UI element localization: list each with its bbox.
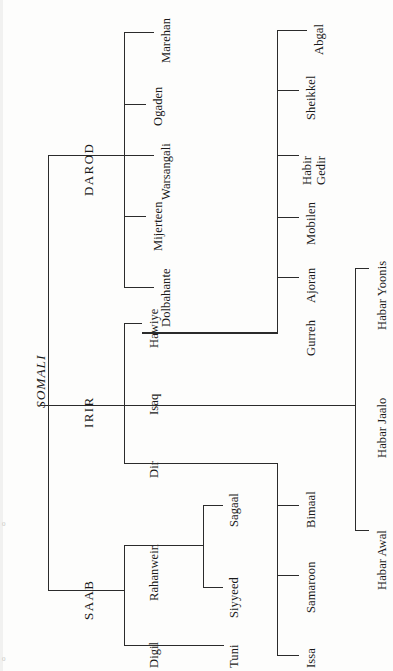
connector-rahanwein-sagaal	[203, 505, 223, 506]
node-abgal: Abgal	[313, 24, 326, 55]
saab-branch-bar	[124, 545, 125, 646]
node-hawiye: Hawiye	[148, 309, 161, 348]
connector-darod-ogaden	[124, 104, 146, 105]
root-trunk	[48, 155, 49, 591]
node-sagaal: Sagaal	[228, 493, 241, 527]
node-bimaal: Bimaal	[305, 491, 318, 528]
node-gurreh: Gurreh	[305, 320, 318, 356]
connector-irir-isaq	[124, 405, 142, 406]
node-mobilen: Mobilen	[305, 202, 318, 245]
node-habar-jaalo: Habar Jaalo	[376, 398, 389, 458]
node-darod: DAROD	[82, 143, 95, 196]
isaq-branch-bar	[355, 268, 356, 531]
node-samaroon: Samaroon	[305, 562, 318, 613]
connector-irir-dir	[124, 463, 142, 464]
node-habar-yoonis: Habar Yoonis	[376, 261, 389, 330]
connector-saab-rahanwein	[124, 545, 142, 546]
irir-branch-bar	[124, 323, 125, 464]
connector-rahanwein-siyyeed	[203, 587, 223, 588]
connector-darod-dolbahante	[124, 287, 154, 288]
connector-hawiye-habir-gedir	[277, 155, 299, 156]
page-margin-mark-top: 0	[2, 520, 6, 528]
dir-branch-bar	[277, 463, 278, 656]
page-margin-mark-bottom: 0	[2, 655, 6, 663]
node-sheikkel: Sheikkel	[305, 75, 318, 120]
connector-rahanwein-to-subtree	[142, 545, 204, 546]
node-dolbahante: Dolbahante	[160, 268, 173, 327]
connector-hawiye-to-subtree	[142, 332, 278, 334]
node-habar-awal: Habar Awal	[376, 530, 389, 590]
darod-branch-bar	[124, 32, 125, 288]
connector-saab-digil	[124, 645, 142, 646]
node-habir-gedir-line1: Habir	[300, 156, 314, 185]
node-ajoran: Ajoran	[305, 268, 318, 303]
node-saab: SAAB	[82, 580, 95, 620]
connector-hawiye-ajoran	[277, 277, 299, 278]
connector-isaq-habar-awal	[355, 530, 369, 531]
connector-darod-warsangali	[124, 155, 154, 156]
connector-dir-bimaal	[277, 505, 299, 506]
connector-irir-hawiye	[124, 323, 142, 324]
node-issa: Issa	[305, 648, 318, 668]
connector-dir-samaroon	[277, 575, 299, 576]
connector-dir-issa	[277, 655, 299, 656]
diagram-canvas: 0 0 SOMALI DAROD IRIR SAAB Marehan Ogade…	[0, 0, 393, 671]
node-tuni: Tuni	[228, 644, 241, 668]
node-irir: IRIR	[82, 396, 95, 428]
connector-hawiye-abgal	[277, 30, 307, 31]
connector-hawiye-mobilen	[277, 217, 299, 218]
node-habir-gedir-line2: Gedir	[314, 156, 328, 185]
node-habir-gedir: Habir Gedir	[300, 156, 328, 185]
connector-isaq-habar-yoonis	[355, 268, 369, 269]
node-siyyeed: Siyyeed	[228, 577, 241, 618]
node-warsangali: Warsangali	[160, 143, 173, 200]
node-rahanwein: Rahanwein	[148, 544, 161, 601]
node-ogaden: Ogaden	[152, 87, 165, 126]
hawiye-branch-bar	[277, 30, 278, 333]
connector-dir-to-subtree	[142, 463, 278, 464]
node-marehan: Marehan	[160, 18, 173, 63]
connector-digil-tuni	[142, 645, 224, 646]
connector-hawiye-sheikkel	[277, 90, 299, 91]
connector-darod-marehan	[124, 32, 154, 33]
rahanwein-branch-bar	[203, 505, 204, 588]
connector-darod-mijerteen	[124, 216, 146, 217]
node-somali: SOMALI	[34, 355, 48, 408]
connector-isaq-to-subtree	[142, 405, 356, 406]
page-edge-artifact	[0, 0, 3, 671]
node-mijerteen: Mijerteen	[152, 202, 165, 252]
